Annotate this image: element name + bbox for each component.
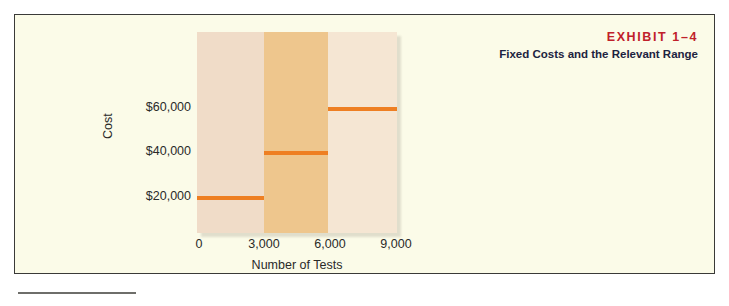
textbook-page: $60,000 $40,000 $20,000 Cost 0 3,000 6,0… xyxy=(0,0,729,306)
exhibit-subtitle: Fixed Costs and the Relevant Range xyxy=(436,47,698,62)
x-axis-title: Number of Tests xyxy=(197,258,397,272)
x-tick-label-3000: 3,000 xyxy=(248,237,279,251)
y-tick-label-60000: $60,000 xyxy=(125,100,191,114)
exhibit-number: EXHIBIT 1–4 xyxy=(436,30,698,45)
y-axis-tick-labels: $60,000 $40,000 $20,000 xyxy=(123,32,191,233)
step-line-60000 xyxy=(328,107,397,111)
y-tick-label-20000: $20,000 xyxy=(125,189,191,203)
x-axis-tick-labels: 0 3,000 6,000 9,000 xyxy=(197,237,397,255)
band-above-relevant-range xyxy=(328,32,397,233)
x-tick-label-0: 0 xyxy=(196,237,203,251)
x-tick-label-9000: 9,000 xyxy=(380,237,411,251)
y-tick-label-40000: $40,000 xyxy=(125,144,191,158)
footnote-separator-rule xyxy=(18,292,136,294)
plot-area xyxy=(197,32,397,233)
band-below-relevant-range xyxy=(197,32,264,233)
exhibit-caption: EXHIBIT 1–4 Fixed Costs and the Relevant… xyxy=(436,30,698,62)
y-axis-title: Cost xyxy=(101,113,115,139)
step-line-20000 xyxy=(197,196,264,200)
band-relevant-range xyxy=(264,32,328,233)
step-line-40000 xyxy=(264,151,328,155)
x-tick-label-6000: 6,000 xyxy=(314,237,345,251)
exhibit-frame: $60,000 $40,000 $20,000 Cost 0 3,000 6,0… xyxy=(14,14,715,274)
